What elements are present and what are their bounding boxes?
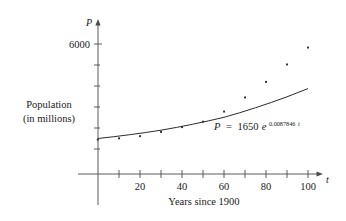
equation-base: e — [262, 121, 267, 132]
equation-exponent-var: t — [298, 120, 300, 127]
equation-annotation: P = 1650 e 0.0087846 t — [213, 117, 300, 132]
y-axis-caption-line2: (in millions) — [23, 113, 76, 125]
data-point — [265, 81, 267, 83]
x-tick-label-60: 60 — [219, 181, 230, 192]
data-point — [307, 47, 309, 49]
equation-equals: = — [226, 121, 232, 132]
data-point — [202, 121, 204, 123]
x-tick-label-40: 40 — [177, 181, 188, 192]
y-axis-symbol: P — [85, 17, 92, 28]
x-tick-label-100: 100 — [300, 181, 316, 192]
x-axis-arrowhead — [317, 171, 324, 176]
equation-exponent-rate: 0.0087846 — [269, 120, 295, 127]
x-axis-caption: Years since 1900 — [168, 196, 239, 207]
equation-lhs: P — [213, 121, 221, 132]
population-growth-chart: P t 6000 20 40 60 80 100 Years since 190… — [0, 0, 346, 221]
data-point — [139, 135, 141, 137]
y-tick-label-6000: 6000 — [69, 39, 90, 50]
data-point — [118, 137, 120, 139]
y-axis-caption-line1: Population — [26, 99, 72, 110]
x-tick-label-20: 20 — [135, 181, 146, 192]
fitted-exponential-curve — [98, 89, 308, 139]
data-point — [244, 97, 246, 99]
y-axis-arrowhead — [95, 19, 100, 26]
data-point — [223, 111, 225, 113]
x-axis-symbol: t — [326, 174, 329, 185]
data-point — [181, 126, 183, 128]
equation-text: P = 1650 e 0.0087846 t — [213, 117, 300, 132]
x-tick-label-80: 80 — [261, 181, 272, 192]
axes-group — [78, 19, 323, 205]
data-point — [286, 64, 288, 66]
equation-coefficient: 1650 — [238, 121, 259, 132]
data-point — [97, 139, 99, 141]
data-point — [160, 131, 162, 133]
